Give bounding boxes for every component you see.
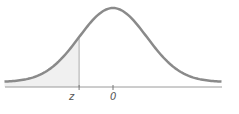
normal-curve-chart <box>0 0 239 114</box>
shaded-tail-area <box>5 37 80 87</box>
zero-tick-label: 0 <box>110 91 116 102</box>
normal-curve <box>5 8 222 82</box>
z-tick-label: z <box>69 91 74 102</box>
